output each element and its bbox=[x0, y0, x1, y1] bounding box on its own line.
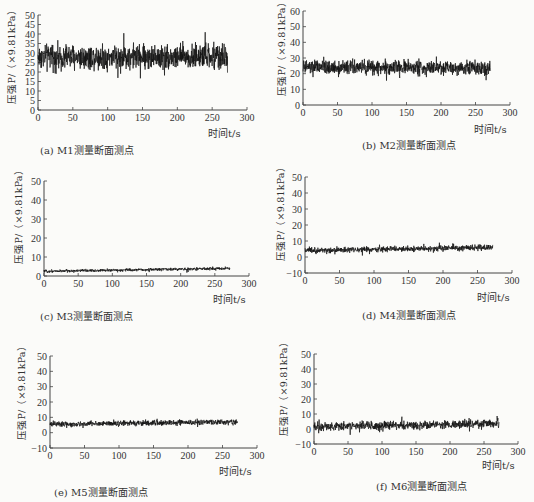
caption-f: (f) M6测量断面测点 bbox=[376, 478, 467, 493]
svg-text:50: 50 bbox=[301, 349, 311, 360]
svg-text:20: 20 bbox=[301, 394, 311, 405]
svg-text:150: 150 bbox=[409, 446, 424, 457]
svg-text:40: 40 bbox=[301, 364, 311, 375]
chart-plot-f: −1001020304050050100150200250300 bbox=[0, 0, 534, 502]
svg-text:200: 200 bbox=[443, 446, 458, 457]
svg-text:300: 300 bbox=[511, 446, 526, 457]
svg-text:0: 0 bbox=[312, 446, 317, 457]
svg-text:30: 30 bbox=[301, 379, 311, 390]
svg-text:100: 100 bbox=[375, 446, 390, 457]
y-axis-label-f: 压强P/（×9.81kPa） bbox=[276, 337, 290, 436]
x-axis-label-f: 时间t/s bbox=[482, 457, 515, 472]
svg-text:0: 0 bbox=[306, 424, 311, 435]
svg-text:−10: −10 bbox=[295, 439, 311, 450]
svg-text:10: 10 bbox=[301, 409, 311, 420]
svg-text:250: 250 bbox=[477, 446, 492, 457]
svg-text:50: 50 bbox=[343, 446, 353, 457]
